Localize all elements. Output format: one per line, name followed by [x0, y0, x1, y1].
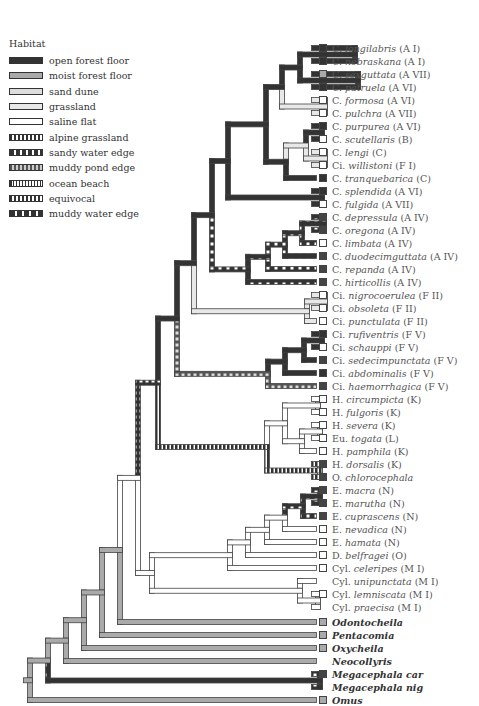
branch-gr: [305, 319, 317, 324]
habitat-box-icon: [319, 57, 327, 65]
branch-sf: [136, 475, 141, 575]
taxon-name: Eu. togata (L): [332, 433, 399, 444]
habitat-box-icon: [319, 330, 327, 338]
taxon-label: Oxycheila: [319, 642, 384, 655]
branch-ofl: [210, 158, 231, 163]
taxon-label: C. nebraskana (A I): [319, 55, 425, 68]
taxon-name: Cyl. praecisa (M I): [332, 602, 421, 613]
habitat-box-icon: [319, 187, 327, 195]
branch-sf: [228, 566, 317, 571]
taxon-name: C. longilabris (A I): [332, 43, 420, 54]
habitat-box-icon: [319, 590, 327, 598]
branch-ofl: [283, 348, 307, 353]
branch-ag: [136, 380, 161, 385]
branch-mfl: [100, 547, 123, 552]
taxon-label: Cyl. unipunctata (M I): [319, 575, 439, 588]
taxon-name: C. splendida (A VI): [332, 186, 423, 197]
branch-ofl: [192, 213, 197, 266]
taxon-label: C. scutellaris (B): [319, 133, 412, 146]
branch-ag: [136, 380, 141, 480]
taxon-name: C. tranquebarica (C): [332, 173, 431, 184]
branch-ofl: [264, 85, 269, 127]
habitat-box-icon: [319, 239, 327, 247]
taxon-label: E. marutha (N): [319, 497, 405, 510]
taxon-label: Ci. abdominalis (F V): [319, 367, 434, 380]
habitat-box-icon: [319, 473, 327, 481]
taxon-name: E. macra (N): [332, 485, 394, 496]
branch-swe: [283, 504, 306, 509]
taxon-label: Megacephala car: [319, 668, 423, 681]
taxon-label: C. duodecimguttata (A IV): [319, 250, 458, 263]
branch-ofl: [175, 261, 180, 321]
branch-mfl: [100, 547, 105, 595]
taxon-label: C. splendida (A VI): [319, 185, 423, 198]
habitat-box-icon: [319, 304, 327, 312]
taxon-label: Ci. nigrocoerulea (F II): [319, 289, 443, 302]
taxon-name: Oxycheila: [332, 643, 384, 654]
branch-mfl: [28, 698, 317, 703]
taxon-name: C. nebraskana (A I): [332, 56, 425, 67]
habitat-box-icon: [319, 278, 327, 286]
habitat-box-icon: [319, 577, 327, 585]
branch-swe: [283, 231, 305, 236]
branch-gr: [192, 261, 197, 314]
taxon-label: E. nevadica (N): [319, 523, 407, 536]
habitat-box-icon: [319, 408, 327, 416]
branch-ofl: [156, 316, 161, 385]
taxon-label: E. cuprascens (N): [319, 510, 418, 523]
taxon-name: Ci. punctulata (F II): [332, 316, 428, 327]
habitat-box-icon: [319, 657, 327, 665]
taxon-name: H. circumpicta (K): [332, 394, 421, 405]
branch-mfl: [118, 620, 317, 625]
branch-sf: [228, 540, 251, 545]
taxon-name: D. belfragei (O): [332, 550, 407, 561]
branch-ofl: [280, 65, 303, 70]
taxon-label: H. dorsalis (K): [319, 458, 402, 471]
habitat-box-icon: [319, 83, 327, 91]
taxon-label: Odontocheila: [319, 616, 403, 629]
habitat-box-icon: [319, 395, 327, 403]
taxon-name: C. patruela (A VI): [332, 82, 416, 93]
habitat-box-icon: [319, 200, 327, 208]
taxon-label: Cyl. praecisa (M I): [319, 601, 421, 614]
taxon-label: D. belfragei (O): [319, 549, 407, 562]
branch-ofl: [210, 158, 215, 217]
branch-mpe: [266, 384, 317, 389]
habitat-box-icon: [319, 499, 327, 507]
branch-ofl: [226, 122, 231, 164]
habitat-box-icon: [319, 538, 327, 546]
branch-gr: [284, 143, 309, 148]
branch-mfl: [100, 590, 105, 638]
tree-branches: [24, 46, 361, 703]
habitat-box-icon: [319, 369, 327, 377]
branch-sf: [246, 553, 317, 558]
taxon-label: Ci. willistoni (F I): [319, 159, 416, 172]
taxon-name: Ci. haemorrhagica (F V): [332, 381, 448, 392]
taxon-name: C. duodecimguttata (A IV): [332, 251, 458, 262]
branch-ofl: [264, 85, 285, 90]
habitat-box-icon: [319, 603, 327, 611]
taxon-label: C. sexguttata (A VII): [319, 68, 431, 81]
habitat-box-icon: [319, 512, 327, 520]
habitat-box-icon: [319, 213, 327, 221]
branch-sf: [298, 598, 321, 603]
branch-sf: [298, 579, 317, 584]
taxon-name: H. severa (K): [332, 420, 396, 431]
habitat-box-icon: [319, 135, 327, 143]
branch-sf: [265, 421, 288, 426]
taxon-name: E. cuprascens (N): [332, 511, 418, 522]
taxon-label: C. patruela (A VI): [319, 81, 416, 94]
habitat-box-icon: [319, 109, 327, 117]
taxon-label: Megacephala nig: [319, 681, 423, 694]
habitat-box-icon: [319, 174, 327, 182]
branch-ob: [156, 380, 161, 449]
taxon-name: C. limbata (A IV): [332, 238, 412, 249]
taxon-name: E. nevadica (N): [332, 524, 407, 535]
habitat-box-icon: [319, 356, 327, 364]
habitat-box-icon: [319, 486, 327, 494]
branch-ofl: [175, 261, 197, 266]
branch-mfl: [118, 547, 123, 624]
habitat-box-icon: [319, 122, 327, 130]
branch-sf: [118, 475, 141, 480]
taxon-label: E. macra (N): [319, 484, 394, 497]
